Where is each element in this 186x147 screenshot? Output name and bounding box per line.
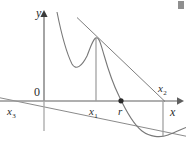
page-edge-artifact [178,1,184,9]
y-axis-label: y [36,7,41,19]
origin-label: 0 [34,86,40,98]
x3-label: x3 [7,106,15,117]
x2-label: x2 [158,83,166,94]
x1-label-subscript: 1 [94,112,98,120]
root-label: r [118,106,122,117]
tangent-line [77,18,165,102]
x-axis-label: x [170,106,175,118]
x1-label: x1 [89,106,97,117]
x3-label-subscript: 3 [12,112,16,120]
math-figure: y x 0 x1 x2 x3 r [0,0,186,147]
figure-canvas [0,0,186,147]
function-curve [57,12,186,137]
root-marker-dot [118,98,123,103]
x2-label-subscript: 2 [163,89,167,97]
y-axis-arrow-icon [40,10,47,17]
x-axis-arrow-icon [177,97,184,105]
